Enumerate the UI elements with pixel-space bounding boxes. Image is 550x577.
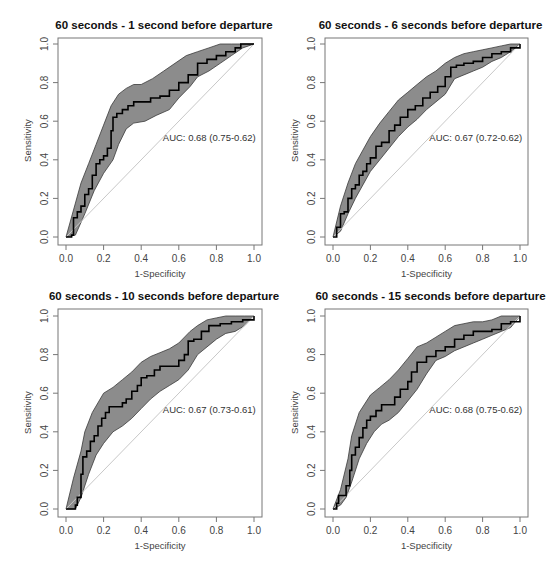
x-tick-label: 0.2 [97, 525, 111, 536]
y-axis-label: Sensitivity [289, 391, 300, 434]
x-tick-label: 0.8 [476, 253, 490, 264]
x-axis-label: 1-Specificity [401, 540, 452, 551]
auc-annotation: AUC: 0.68 (0.75-0.62) [163, 132, 256, 143]
x-tick-label: 0.2 [363, 253, 377, 264]
x-tick-label: 0.2 [363, 525, 377, 536]
auc-annotation: AUC: 0.67 (0.72-0.62) [429, 132, 522, 143]
y-axis-label: Sensitivity [22, 391, 33, 434]
y-tick-label: 0.8 [306, 75, 317, 89]
y-tick-label: 0.2 [39, 191, 50, 205]
y-tick-label: 0.0 [306, 230, 317, 244]
y-tick-label: 0.2 [306, 463, 317, 477]
panel-title: 60 seconds - 6 seconds before departure [319, 19, 543, 31]
y-tick-label: 0.6 [39, 386, 50, 400]
x-tick-label: 0.6 [172, 525, 186, 536]
panel-title: 60 seconds - 10 seconds before departure [49, 290, 279, 302]
y-tick-label: 0.4 [306, 152, 317, 166]
y-tick-label: 0.8 [39, 75, 50, 89]
x-tick-label: 0.2 [97, 253, 111, 264]
x-tick-label: 0.0 [59, 253, 73, 264]
y-tick-label: 0.4 [306, 424, 317, 438]
auc-annotation: AUC: 0.67 (0.73-0.61) [163, 404, 256, 415]
y-tick-label: 0.0 [306, 502, 317, 516]
y-tick-label: 0.2 [306, 191, 317, 205]
y-tick-label: 0.8 [39, 347, 50, 361]
x-tick-label: 0.0 [326, 525, 340, 536]
x-tick-label: 0.8 [476, 525, 490, 536]
x-tick-label: 0.6 [172, 253, 186, 264]
x-tick-label: 1.0 [513, 525, 527, 536]
x-tick-label: 0.4 [134, 525, 148, 536]
y-tick-label: 1.0 [39, 309, 50, 323]
x-tick-label: 1.0 [247, 525, 261, 536]
x-tick-label: 1.0 [513, 253, 527, 264]
y-tick-label: 0.4 [39, 152, 50, 166]
x-tick-label: 0.6 [438, 525, 452, 536]
x-tick-label: 0.4 [401, 525, 415, 536]
x-tick-label: 0.6 [438, 253, 452, 264]
panel-title: 60 seconds - 15 seconds before departure [315, 290, 545, 302]
y-axis-label: Sensitivity [289, 119, 300, 162]
auc-annotation: AUC: 0.68 (0.75-0.62) [429, 404, 522, 415]
roc-figure: 60 seconds - 1 second before departure0.… [0, 0, 550, 577]
roc-panel-3: 60 seconds - 10 seconds before departure… [22, 290, 279, 551]
x-tick-label: 0.8 [209, 253, 223, 264]
x-tick-label: 0.4 [134, 253, 148, 264]
y-tick-label: 0.8 [306, 347, 317, 361]
y-tick-label: 0.6 [39, 114, 50, 128]
roc-panel-4: 60 seconds - 15 seconds before departure… [289, 290, 546, 551]
x-tick-label: 0.4 [401, 253, 415, 264]
x-tick-label: 0.0 [326, 253, 340, 264]
panel-title: 60 seconds - 1 second before departure [55, 19, 272, 31]
y-tick-label: 1.0 [39, 37, 50, 51]
x-axis-label: 1-Specificity [134, 268, 185, 279]
y-tick-label: 0.6 [306, 114, 317, 128]
x-axis-label: 1-Specificity [401, 268, 452, 279]
y-tick-label: 0.6 [306, 386, 317, 400]
y-tick-label: 0.0 [39, 230, 50, 244]
x-tick-label: 0.0 [59, 525, 73, 536]
x-tick-label: 1.0 [247, 253, 261, 264]
x-tick-label: 0.8 [209, 525, 223, 536]
y-tick-label: 0.2 [39, 463, 50, 477]
y-tick-label: 0.4 [39, 424, 50, 438]
y-tick-label: 1.0 [306, 309, 317, 323]
y-tick-label: 1.0 [306, 37, 317, 51]
y-axis-label: Sensitivity [22, 119, 33, 162]
x-axis-label: 1-Specificity [134, 540, 185, 551]
roc-panel-1: 60 seconds - 1 second before departure0.… [22, 19, 273, 279]
roc-panel-2: 60 seconds - 6 seconds before departure0… [289, 19, 542, 279]
y-tick-label: 0.0 [39, 502, 50, 516]
